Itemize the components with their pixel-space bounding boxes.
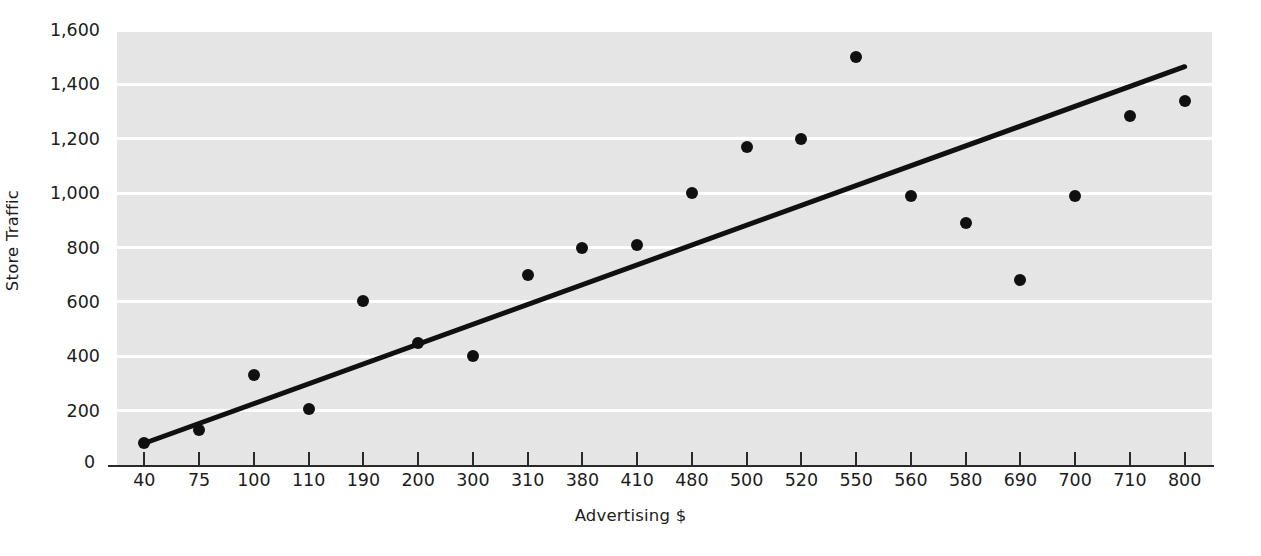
- data-point: [905, 190, 917, 202]
- x-axis-tick-label: 410: [620, 470, 653, 490]
- x-axis-tick-label: 550: [839, 470, 872, 490]
- data-point: [741, 141, 753, 153]
- y-axis-tick-labels: 2004006008001,0001,2001,4001,600: [26, 0, 108, 500]
- x-axis-tick-label: 100: [237, 470, 270, 490]
- x-axis-tick-label: 710: [1113, 470, 1146, 490]
- x-axis-tick: [527, 452, 529, 465]
- data-point: [522, 269, 534, 281]
- data-point: [193, 424, 205, 436]
- y-axis-title-label: Store Traffic: [4, 189, 23, 290]
- x-axis-tick: [746, 452, 748, 465]
- x-axis-tick-labels: 4075100110190200300310380410480500520550…: [117, 470, 1212, 498]
- scatter-chart: Store Traffic 2004006008001,0001,2001,40…: [0, 0, 1261, 556]
- x-axis-tick-label: 480: [675, 470, 708, 490]
- x-axis-tick-label: 200: [401, 470, 434, 490]
- x-axis-tick: [417, 452, 419, 465]
- x-axis-tick: [1074, 452, 1076, 465]
- x-axis-tick: [965, 452, 967, 465]
- data-point: [1069, 190, 1081, 202]
- x-axis-tick: [198, 452, 200, 465]
- y-axis-tick-label: 1,000: [50, 183, 100, 203]
- x-axis-tick-label: 380: [566, 470, 599, 490]
- x-axis-tick-label: 690: [1004, 470, 1037, 490]
- x-axis-tick: [910, 452, 912, 465]
- x-axis-tick: [253, 452, 255, 465]
- x-axis-tick-label: 110: [292, 470, 325, 490]
- y-axis-tick-label: 400: [67, 346, 100, 366]
- x-axis-tick: [636, 452, 638, 465]
- data-point: [303, 403, 315, 415]
- data-point: [576, 242, 588, 254]
- x-axis-tick-label: 800: [1168, 470, 1201, 490]
- y-axis-tick-label: 600: [67, 292, 100, 312]
- x-axis-title: Advertising $: [0, 506, 1261, 525]
- x-axis-tick: [1019, 452, 1021, 465]
- y-axis-zero-label: 0: [84, 452, 95, 472]
- plot-area: [117, 30, 1212, 465]
- x-axis-tick-label: 580: [949, 470, 982, 490]
- x-axis-tick-label: 190: [347, 470, 380, 490]
- x-axis-tick-label: 310: [511, 470, 544, 490]
- x-axis-tick: [362, 452, 364, 465]
- data-point: [412, 337, 424, 349]
- x-axis-tick: [691, 452, 693, 465]
- x-axis-tick-label: 75: [188, 470, 210, 490]
- y-axis-tick-label: 1,600: [50, 20, 100, 40]
- x-axis-tick-label: 300: [456, 470, 489, 490]
- x-axis-tick: [1184, 452, 1186, 465]
- x-axis-tick: [472, 452, 474, 465]
- x-axis-tick: [581, 452, 583, 465]
- x-axis-tick-label: 700: [1058, 470, 1091, 490]
- data-point: [686, 187, 698, 199]
- y-axis-tick-label: 200: [67, 401, 100, 421]
- x-axis-tick-label: 500: [730, 470, 763, 490]
- y-axis-tick-label: 1,400: [50, 74, 100, 94]
- x-axis-tick: [308, 452, 310, 465]
- x-axis-ticks: [117, 452, 1212, 466]
- x-axis-tick: [1129, 452, 1131, 465]
- y-axis-tick-label: 800: [67, 238, 100, 258]
- data-point: [960, 217, 972, 229]
- x-axis-tick: [800, 452, 802, 465]
- data-point: [1124, 110, 1136, 122]
- y-axis-tick-label: 1,200: [50, 129, 100, 149]
- data-point: [1179, 95, 1191, 107]
- data-point: [631, 239, 643, 251]
- x-axis-tick-label: 40: [133, 470, 155, 490]
- data-point: [357, 295, 369, 307]
- x-axis-tick: [855, 452, 857, 465]
- x-axis-tick-label: 520: [785, 470, 818, 490]
- y-axis-title: Store Traffic: [0, 0, 26, 480]
- trendline: [117, 30, 1212, 465]
- x-axis-tick-label: 560: [894, 470, 927, 490]
- x-axis-tick: [143, 452, 145, 465]
